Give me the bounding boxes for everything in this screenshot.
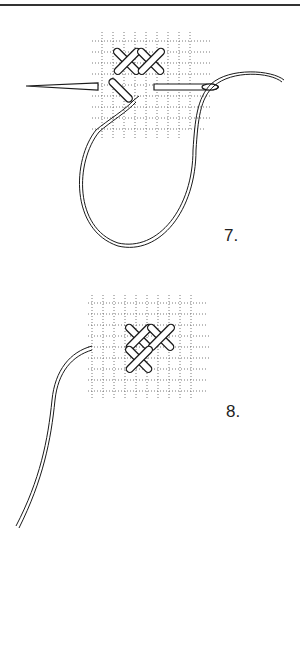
figure-step-8: 8. [0, 290, 300, 560]
cross-stitch-illustration-8 [0, 290, 300, 560]
cross-stitch-illustration-7 [0, 0, 300, 290]
step-label-7: 7. [224, 226, 238, 246]
step-label-8: 8. [226, 402, 240, 422]
stitches [124, 323, 176, 374]
figure-step-7: 7. [0, 0, 300, 290]
thread [79, 72, 284, 247]
thread-tail [16, 346, 92, 528]
stitches [108, 47, 166, 104]
